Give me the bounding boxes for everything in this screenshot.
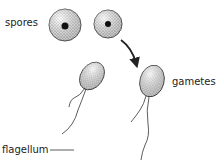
label-flagellum: flagellum	[2, 145, 49, 155]
spore-1	[49, 9, 81, 41]
transition-arrow	[121, 40, 136, 63]
spore-2	[94, 10, 122, 38]
flagellum-1b	[62, 89, 86, 134]
label-gametes: gametes	[172, 77, 216, 87]
gamete-2	[131, 62, 168, 160]
spore-nucleus	[62, 23, 69, 30]
label-spores: spores	[5, 18, 38, 28]
gamete-1	[62, 57, 110, 134]
spore-nucleus	[105, 21, 111, 27]
flagellum-2a	[131, 96, 146, 122]
